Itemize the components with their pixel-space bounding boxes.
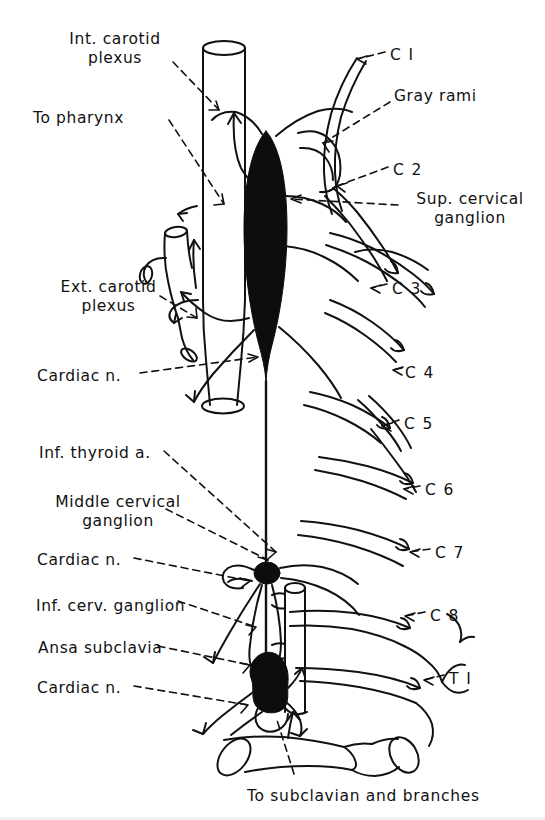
segment-label-c5: C 5 [404,415,434,433]
c8-nerve-root [290,611,410,646]
c6-nerve-root [315,429,416,499]
superior-cervical-ganglion [244,131,287,381]
figure-caption: To subclavian and branches [247,787,480,805]
segment-label-c7: C 7 [435,544,465,562]
carotid-artery-tube [202,41,245,414]
label-cardiac-n-middle: Cardiac n. [37,551,121,570]
label-cardiac-n-upper: Cardiac n. [37,367,121,386]
label-inf-thyroid-a: Inf. thyroid a. [39,444,151,463]
label-int-carotid-plexus: Int. carotid plexus [45,30,185,68]
label-to-pharynx: To pharynx [33,109,124,128]
inferior-cervical-ganglion [250,652,288,713]
segment-label-c8: C 8 [430,607,460,625]
label-sup-cervical-ganglion: Sup. cervical ganglion [397,190,543,228]
middle-cervical-ganglion [254,562,280,584]
segment-label-c4: C 4 [405,364,435,382]
figure-page: Int. carotid plexus To pharynx Ext. caro… [0,0,545,820]
segment-label-c6: C 6 [425,481,455,499]
subclavian-artery [211,732,425,782]
pharyngeal-branch [178,206,197,221]
label-gray-rami: Gray rami [394,87,477,106]
segment-label-c3: C 3 [392,280,422,298]
segment-label-c2: C 2 [393,161,423,179]
label-cardiac-n-lower: Cardiac n. [37,679,121,698]
segment-label-c1: C I [390,46,415,64]
label-middle-cervical-ganglion: Middle cervical ganglion [38,493,198,531]
c4-nerve-root [325,300,404,362]
label-ansa-subclavia: Ansa subclavia [38,639,162,658]
label-ext-carotid-plexus: Ext. carotid plexus [36,278,181,316]
t1-nerve-root [296,668,420,703]
label-inf-cerv-ganglion: Inf. cerv. ganglion [36,597,185,616]
c7-nerve-root [298,521,409,566]
segment-label-t1: T I [449,670,472,688]
